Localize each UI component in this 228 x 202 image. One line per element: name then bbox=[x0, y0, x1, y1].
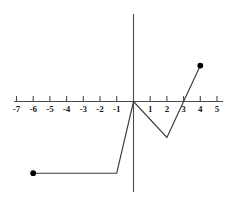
endpoint-dot-left bbox=[30, 170, 36, 176]
x-axis-ticks bbox=[17, 96, 218, 102]
x-tick-label--2: -2 bbox=[96, 105, 104, 114]
x-tick-label--3: -3 bbox=[80, 105, 88, 114]
x-tick-label-4: 4 bbox=[198, 105, 203, 114]
x-tick-label-3: 3 bbox=[181, 105, 186, 114]
x-tick-label-1: 1 bbox=[148, 105, 153, 114]
graph-figure: -7 -6 -5 -4 -3 -2 -1 1 2 3 4 5 bbox=[0, 0, 228, 202]
x-tick-label-2: 2 bbox=[165, 105, 170, 114]
function-curve bbox=[33, 66, 200, 174]
x-tick-label--5: -5 bbox=[46, 105, 54, 114]
x-tick-label-5: 5 bbox=[215, 105, 220, 114]
endpoint-dot-right bbox=[197, 63, 203, 69]
plot-canvas bbox=[0, 0, 228, 202]
x-tick-label--4: -4 bbox=[63, 105, 71, 114]
x-tick-label--7: -7 bbox=[13, 105, 21, 114]
x-tick-label--6: -6 bbox=[29, 105, 37, 114]
x-tick-label--1: -1 bbox=[113, 105, 121, 114]
